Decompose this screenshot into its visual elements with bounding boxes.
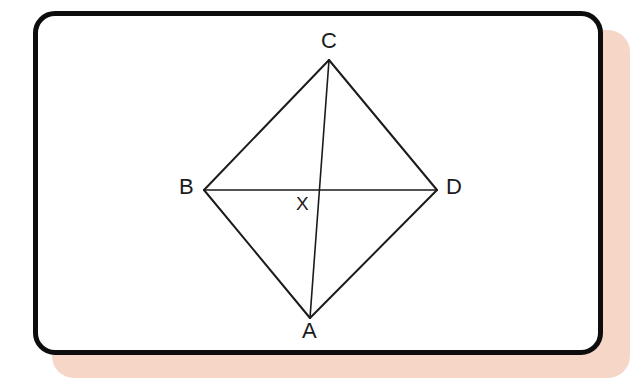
vertex-label-a: A (302, 320, 317, 342)
diagram-stage: C B D A X (0, 0, 636, 384)
vertex-label-x: X (296, 194, 309, 213)
vertex-label-d: D (446, 176, 462, 198)
diagram-card (33, 11, 603, 355)
vertex-label-c: C (321, 30, 337, 52)
vertex-label-b: B (179, 176, 194, 198)
